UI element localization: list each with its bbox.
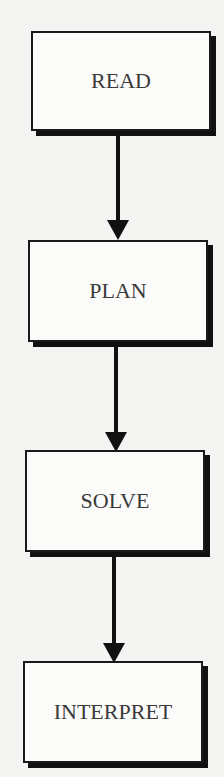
step-label: INTERPRET	[54, 699, 173, 725]
step-read: READ	[31, 31, 211, 131]
arrow-down-icon	[103, 643, 125, 663]
arrow-solve-to-interpret-line	[112, 555, 116, 647]
step-label: READ	[91, 68, 151, 94]
step-plan: PLAN	[28, 240, 208, 342]
step-solve: SOLVE	[25, 450, 205, 552]
step-interpret: INTERPRET	[23, 661, 203, 763]
step-label: SOLVE	[81, 488, 150, 514]
arrow-down-icon	[105, 432, 127, 452]
step-label: PLAN	[89, 278, 146, 304]
arrow-read-to-plan-line	[116, 133, 120, 225]
arrow-plan-to-solve-line	[114, 345, 118, 437]
arrow-down-icon	[107, 220, 129, 240]
